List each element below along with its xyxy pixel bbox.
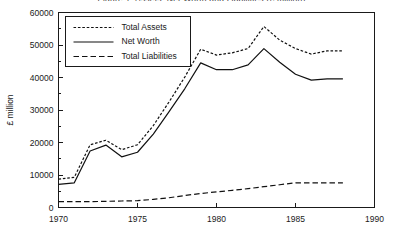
y-tick-label: 60000 <box>30 8 54 18</box>
x-tick-label: 1970 <box>49 214 68 224</box>
y-tick-label: 10000 <box>30 170 54 180</box>
chart-legend: Total AssetsNet WorthTotal Liabilities <box>66 17 191 67</box>
x-tick-label: 1980 <box>207 214 226 224</box>
y-tick-label: 40000 <box>30 73 54 83</box>
y-tick-label: 30000 <box>30 105 54 115</box>
x-tick-label: 1975 <box>128 214 147 224</box>
series-line-net-worth <box>59 49 343 185</box>
chart-container: Figure 1: Assets, Net Worth and Liabilit… <box>0 0 403 233</box>
x-tick-label: 1990 <box>365 214 384 224</box>
y-tick-label: 0 <box>49 203 54 213</box>
x-tick-label: 1985 <box>286 214 305 224</box>
legend-label-total-assets: Total Assets <box>122 22 167 32</box>
x-axis-ticks: 19701975198019851990 <box>49 203 384 224</box>
chart-plot-area: 0100002000030000400005000060000 19701975… <box>0 0 403 233</box>
y-tick-label: 50000 <box>30 40 54 50</box>
y-axis-ticks: 0100002000030000400005000060000 <box>30 8 63 213</box>
series-line-total-liabilities <box>59 183 343 202</box>
legend-label-net-worth: Net Worth <box>122 36 160 46</box>
legend-label-total-liabilities: Total Liabilities <box>122 51 177 61</box>
y-axis-label: £ million <box>5 94 15 125</box>
y-tick-label: 20000 <box>30 138 54 148</box>
